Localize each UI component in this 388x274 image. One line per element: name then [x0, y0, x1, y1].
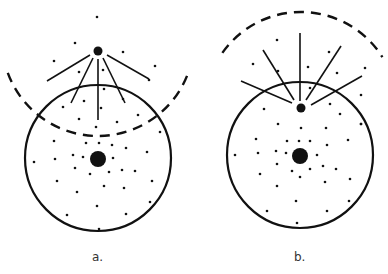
scatter-dot [263, 108, 266, 111]
scatter-dot [125, 213, 128, 216]
scatter-dot [100, 107, 103, 110]
scatter-dot [108, 171, 111, 174]
scatter-dot [82, 156, 85, 159]
scatter-dot [335, 168, 338, 171]
scatter-dot [234, 154, 237, 157]
scatter-dot [78, 71, 81, 74]
scatter-dot [309, 87, 312, 90]
scatter-dot [151, 180, 154, 183]
scatter-dot [85, 142, 88, 145]
scatter-dot [255, 138, 258, 141]
scatter-dot [62, 106, 65, 109]
scatter-dot [309, 140, 312, 143]
scatter-dot [137, 114, 140, 117]
scatter-dot [83, 100, 86, 103]
scatter-dot [103, 88, 106, 91]
scatter-dot [74, 42, 77, 45]
scatter-dot [116, 121, 119, 124]
panel-b [222, 12, 382, 228]
source-dot [297, 104, 306, 113]
scatter-dot [252, 63, 255, 66]
scatter-dot [336, 72, 339, 75]
scatter-dot [276, 185, 279, 188]
scatter-dot [121, 169, 124, 172]
scatter-dot [102, 69, 105, 72]
scatter-dot [33, 161, 36, 164]
scatter-dot [78, 118, 81, 121]
scatter-dot [360, 123, 363, 126]
scatter-dot [96, 205, 99, 208]
scatter-dot [307, 66, 310, 69]
scatter-dot [125, 147, 128, 150]
scatter-dot [134, 170, 137, 173]
scatter-dot [276, 39, 279, 42]
scatter-dot [295, 200, 298, 203]
scatter-dot [95, 126, 98, 129]
nucleus-dot [90, 151, 106, 167]
scatter-dot [339, 113, 342, 116]
panel-a-label: a. [92, 250, 103, 264]
scatter-dot [98, 142, 101, 145]
scatter-dot [300, 127, 303, 130]
scatter-dot [96, 16, 99, 19]
scatter-dot [349, 178, 352, 181]
nucleus-dot [292, 148, 308, 164]
scatter-dot [326, 144, 329, 147]
scatter-dot [347, 139, 350, 142]
scatter-dot [54, 158, 57, 161]
scatter-dot [277, 123, 280, 126]
scatter-dot [72, 154, 75, 157]
scatter-dot [76, 191, 79, 194]
scatter-dot [56, 180, 59, 183]
scatter-dot [364, 67, 367, 70]
scatter-dot [324, 181, 327, 184]
scatter-dot [298, 140, 301, 143]
scatter-dot [286, 140, 289, 143]
panel-b-label: b. [294, 250, 305, 264]
scatter-dot [123, 187, 126, 190]
scatter-dot [316, 154, 319, 157]
scatter-dot [111, 144, 114, 147]
scatter-dot [66, 214, 69, 217]
source-dot [94, 47, 103, 56]
scatter-dot [275, 150, 278, 153]
scatter-dot [259, 173, 262, 176]
scatter-dot [296, 222, 299, 225]
scatter-dot [149, 201, 152, 204]
scatter-dot [276, 163, 279, 166]
scatter-dot [326, 210, 329, 213]
scatter-dot [291, 170, 294, 173]
scatter-dot [74, 167, 77, 170]
scatter-dot [309, 168, 312, 171]
scatter-dot [103, 185, 106, 188]
scatter-dot [89, 173, 92, 176]
scatter-dot [277, 70, 280, 73]
scatter-dot [154, 65, 157, 68]
scatter-dot [285, 152, 288, 155]
scatter-dot [257, 152, 260, 155]
scatter-dot [159, 131, 162, 134]
diagram-canvas [0, 0, 388, 274]
scatter-dot [98, 228, 101, 231]
scatter-dot [146, 151, 149, 154]
scatter-dot [53, 60, 56, 63]
scatter-dot [122, 98, 125, 101]
scatter-dot [325, 127, 328, 130]
scatter-dot [112, 157, 115, 160]
dashed-arc [222, 12, 382, 57]
scatter-dot [348, 200, 351, 203]
scatter-dot [299, 176, 302, 179]
scatter-dot [266, 210, 269, 213]
scatter-dot [329, 103, 332, 106]
ray-line [103, 58, 125, 103]
scatter-dot [322, 165, 325, 168]
ray-line [107, 55, 149, 79]
scatter-dot [122, 51, 125, 54]
panel-a [8, 16, 188, 231]
scatter-dot [360, 94, 363, 97]
scatter-dot [148, 79, 151, 82]
scatter-dot [53, 140, 56, 143]
scatter-dot [328, 51, 331, 54]
